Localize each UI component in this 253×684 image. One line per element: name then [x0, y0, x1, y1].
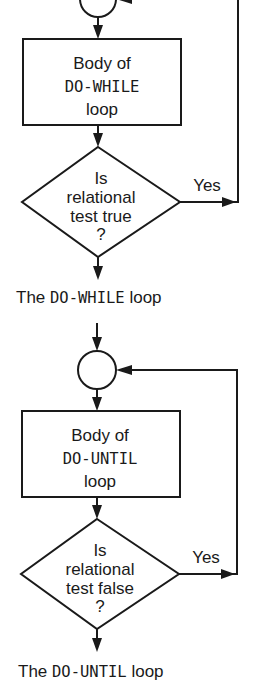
do-until-flowchart: Body of DO-UNTIL loop Is relational test…	[18, 323, 237, 681]
do-until-return-arrowhead-icon	[116, 365, 132, 375]
do-until-caption-suffix: loop	[127, 662, 164, 681]
do-while-caption: The DO-WHILE loop	[16, 288, 162, 307]
do-until-junction-circle	[78, 351, 116, 389]
do-until-body-keyword: DO-UNTIL	[63, 450, 138, 468]
do-until-caption-prefix: The	[18, 662, 52, 681]
do-until-caption: The DO-UNTIL loop	[18, 662, 164, 681]
do-until-caption-keyword: DO-UNTIL	[52, 663, 127, 681]
do-while-flowchart: Body of DO-WHILE loop Is relational test…	[16, 0, 238, 307]
do-while-decision-line4: ?	[96, 225, 105, 244]
do-while-body-keyword: DO-WHILE	[65, 78, 140, 96]
do-while-decision-line3: test true	[70, 207, 131, 226]
do-while-yes-label: Yes	[193, 176, 221, 195]
do-while-arrowhead-down-icon	[93, 133, 103, 147]
do-while-exit-arrowhead-icon	[93, 266, 103, 280]
do-until-arrowhead-down-icon	[92, 505, 102, 519]
do-while-caption-suffix: loop	[125, 288, 162, 307]
do-until-body-line3: loop	[84, 472, 116, 491]
do-while-arrowhead-down-icon	[93, 25, 103, 39]
do-while-caption-keyword: DO-WHILE	[50, 289, 125, 307]
do-until-decision-line2: relational	[66, 560, 135, 579]
do-while-caption-prefix: The	[16, 288, 50, 307]
do-until-arrowhead-down-icon	[92, 397, 102, 411]
do-while-body-line1: Body of	[73, 54, 131, 73]
do-while-decision-line1: Is	[94, 169, 107, 188]
do-while-junction-circle	[80, 0, 116, 17]
do-until-decision-line3: test false	[66, 579, 134, 598]
do-until-decision-line4: ?	[95, 597, 104, 616]
do-while-decision-line2: relational	[67, 188, 136, 207]
do-while-return-arrowhead-icon	[116, 0, 132, 4]
do-while-yes-arrowhead-icon	[222, 197, 236, 207]
do-while-body-line3: loop	[86, 100, 118, 119]
do-until-body-line1: Body of	[71, 426, 129, 445]
do-until-yes-label: Yes	[192, 548, 220, 567]
do-until-decision-line1: Is	[93, 541, 106, 560]
do-until-exit-arrowhead-icon	[92, 638, 102, 652]
do-until-yes-arrowhead-icon	[221, 569, 235, 579]
flowchart-canvas: Body of DO-WHILE loop Is relational test…	[0, 0, 253, 684]
do-until-entry-arrowhead-icon	[92, 337, 102, 351]
